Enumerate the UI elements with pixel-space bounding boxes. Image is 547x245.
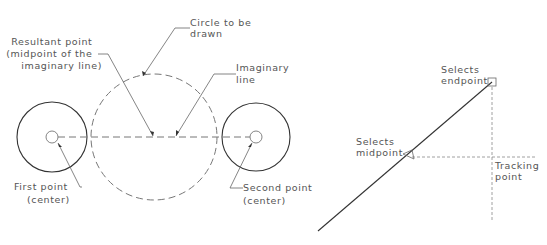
first-point-marker: [46, 131, 58, 143]
label-first-point: First point (center): [14, 181, 71, 205]
midpoint-marker: [403, 150, 414, 159]
right-figure: Selects endpoint Selects midpoint Tracki…: [318, 64, 543, 231]
arrowhead: [58, 143, 62, 147]
diagram-canvas: Circle to be drawn Resultant point (midp…: [0, 0, 547, 245]
leader-resultant-point: [98, 54, 153, 136]
label-imaginary-line: Imaginary line: [236, 62, 293, 85]
left-circle: [17, 102, 87, 172]
label-circle-to-be-drawn: Circle to be drawn: [190, 17, 255, 39]
arrowhead: [150, 131, 154, 136]
second-point-marker: [250, 131, 262, 143]
label-selects-endpoint: Selects endpoint: [441, 64, 488, 86]
label-resultant-point: Resultant point (midpoint of the imagina…: [6, 36, 102, 71]
label-tracking-point: Tracking point: [494, 160, 543, 182]
left-figure: Circle to be drawn Resultant point (midp…: [6, 17, 316, 206]
leader-circle-to-be-drawn: [143, 28, 190, 76]
right-circle: [222, 103, 290, 171]
object-line: [318, 82, 492, 231]
arrowhead: [176, 130, 179, 136]
arrowhead: [248, 143, 252, 147]
dashed-circle-to-be-drawn: [91, 74, 217, 200]
label-second-point: Second point (center): [243, 182, 316, 206]
leader-imaginary-line: [176, 74, 236, 136]
label-selects-midpoint: Selects midpoint: [356, 136, 403, 158]
